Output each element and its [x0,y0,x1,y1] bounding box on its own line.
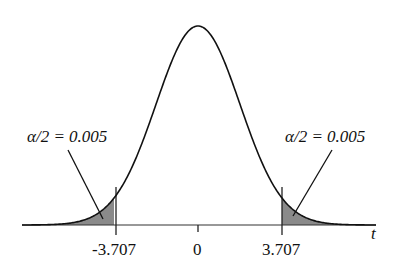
left-annotation-pointer [68,150,103,219]
density-curve [22,26,376,225]
tick-label-right: 3.707 [262,240,300,260]
tick-label-center: 0 [193,240,202,260]
right-annotation-pointer [293,150,332,216]
right-annotation: α/2 = 0.005 [285,127,365,147]
left-annotation: α/2 = 0.005 [27,127,107,147]
tick-label-left: -3.707 [92,240,136,260]
x-axis-label: t [371,224,376,244]
